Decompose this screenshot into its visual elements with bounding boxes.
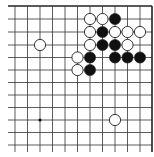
white-stone: [109, 114, 120, 125]
black-stone: [109, 13, 120, 24]
star-point: [38, 118, 41, 121]
star-points: [38, 118, 41, 121]
black-stone: [84, 64, 95, 75]
black-stone: [84, 52, 95, 63]
white-stone: [109, 26, 120, 37]
go-board: [0, 0, 154, 157]
white-stone: [84, 39, 95, 50]
white-stone: [134, 26, 145, 37]
black-stone: [134, 52, 145, 63]
black-stone: [97, 39, 108, 50]
black-stone: [122, 52, 133, 63]
white-stone: [84, 26, 95, 37]
white-stone: [72, 64, 83, 75]
white-stone: [122, 26, 133, 37]
white-stone: [34, 39, 45, 50]
black-stone: [109, 39, 120, 50]
black-stone: [109, 52, 120, 63]
white-stone: [122, 39, 133, 50]
white-stone: [84, 13, 95, 24]
black-stone: [97, 26, 108, 37]
white-stone: [72, 52, 83, 63]
white-stone: [97, 13, 108, 24]
